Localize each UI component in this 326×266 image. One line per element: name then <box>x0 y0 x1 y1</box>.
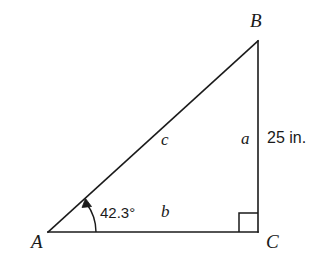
side-label-b: b <box>161 203 170 220</box>
angle-label: 42.3° <box>100 205 135 220</box>
vertex-label-a: A <box>31 232 43 251</box>
measurement-label: 25 in. <box>267 130 306 146</box>
side-label-c: c <box>161 131 169 148</box>
angle-arc <box>87 204 97 233</box>
vertex-label-c: C <box>266 232 279 251</box>
side-label-a: a <box>241 130 250 147</box>
side-c-hypotenuse-line <box>48 41 258 232</box>
right-triangle-figure: A B C a b c 25 in. 42.3° <box>0 0 326 266</box>
vertex-label-b: B <box>250 11 262 30</box>
right-angle-marker <box>239 213 258 232</box>
